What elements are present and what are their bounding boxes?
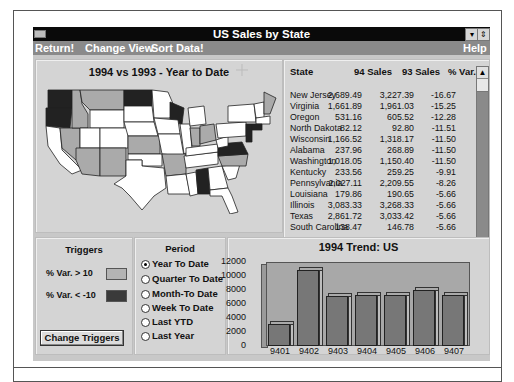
table-row[interactable]: Illinois3,083.333,268.33-5.66	[284, 200, 472, 211]
period-panel: Period Year To Date Quarter To Date Mont…	[134, 237, 226, 355]
trigger-low-swatch[interactable]	[106, 290, 127, 302]
cell-93: 146.78	[387, 222, 414, 233]
cell-93: 259.25	[387, 167, 414, 178]
trend-chart: 1994 Trend: US 12000 10000 8000 6000 400…	[227, 237, 490, 355]
table-row[interactable]: Texas2,861.723,033.42-5.66	[284, 211, 472, 222]
radio-label: Last Year	[152, 330, 194, 342]
window-title: US Sales by State	[33, 27, 490, 41]
y-tick: 0	[206, 340, 246, 350]
cell-93: 605.52	[387, 112, 414, 123]
cell-94: 2,861.72	[328, 211, 362, 222]
bar-9407[interactable]	[442, 295, 464, 346]
table-row[interactable]: Virginia1,661.891,961.03-15.25	[284, 101, 472, 112]
cell-state: North Dakota	[290, 123, 342, 134]
y-tick: 4000	[206, 312, 246, 322]
scroll-up-button[interactable]: ▲	[477, 67, 488, 78]
radio-circle	[141, 275, 150, 284]
bar-9404[interactable]	[355, 295, 377, 346]
cell-94: 82.12	[340, 123, 362, 134]
trigger-low-label: % Var. < -10	[46, 290, 96, 300]
bar-9401[interactable]	[268, 324, 290, 346]
y-tick: 6000	[206, 298, 246, 308]
cell-var: -12.28	[431, 112, 456, 123]
menu-return[interactable]: Return!	[35, 41, 74, 55]
cell-94: 1,018.05	[328, 156, 362, 167]
cell-state: Virginia	[290, 101, 319, 112]
radio-label: Last YTD	[152, 316, 193, 328]
menu-help[interactable]: Help	[463, 41, 487, 55]
cell-93: 1,318.17	[380, 134, 414, 145]
radio-circle	[141, 332, 150, 341]
y-tick: 2000	[206, 326, 246, 336]
vertical-scrollbar[interactable]: ▲ ▼	[476, 66, 489, 255]
radio-circle	[141, 318, 150, 327]
radio-circle	[141, 304, 150, 313]
table-row[interactable]: Oregon531.16605.52-12.28	[284, 112, 472, 123]
x-tick: 9407	[442, 346, 466, 356]
table-row[interactable]: South Carolina138.47146.78-5.66	[284, 222, 472, 233]
cell-93: 1,150.40	[380, 156, 414, 167]
cell-var: -11.51	[432, 123, 456, 134]
cell-94: 2,027.11	[328, 178, 362, 189]
x-tick: 9405	[384, 346, 408, 356]
trigger-high-swatch[interactable]	[106, 268, 127, 280]
radio-circle	[141, 260, 150, 269]
table-row[interactable]: Washington1,018.051,150.40-11.50	[284, 156, 472, 167]
cell-93: 3,227.39	[380, 90, 414, 101]
table-row[interactable]: Alabama237.96268.89-11.50	[284, 145, 472, 156]
cell-var: -11.50	[432, 156, 456, 167]
cell-94: 237.96	[335, 145, 362, 156]
cell-state: Oregon	[290, 112, 319, 123]
trigger-high-label: % Var. > 10	[46, 268, 93, 278]
us-map[interactable]	[42, 84, 280, 214]
bar-9403[interactable]	[326, 296, 348, 346]
cell-var: -11.50	[432, 134, 456, 145]
x-tick: 9404	[355, 346, 379, 356]
cell-94: 1,661.89	[328, 101, 362, 112]
header-93-sales[interactable]: 93 Sales	[402, 66, 440, 77]
table-row[interactable]: Kentucky233.56259.25-9.91	[284, 167, 472, 178]
table-row[interactable]: Louisiana179.86190.65-5.66	[284, 189, 472, 200]
cell-var: -5.66	[436, 222, 456, 233]
menu-sort-data[interactable]: Sort Data!	[151, 41, 204, 55]
bar-side	[348, 294, 352, 346]
sales-table: State 94 Sales 93 Sales % Var. New Jerse…	[283, 59, 490, 257]
x-tick: 9406	[413, 346, 437, 356]
triggers-title: Triggers	[36, 244, 132, 255]
change-triggers-button[interactable]: Change Triggers	[40, 330, 124, 346]
radio-circle	[141, 290, 150, 299]
table-row[interactable]: Pennsylvania2,027.112,209.55-8.26	[284, 178, 472, 189]
header-var[interactable]: % Var.	[448, 66, 476, 77]
cell-state: Kentucky	[290, 167, 326, 178]
cell-var: -5.66	[436, 211, 456, 222]
cell-var: -9.91	[436, 167, 456, 178]
table-row[interactable]: Wisconsin1,166.521,318.17-11.50	[284, 134, 472, 145]
bar-side	[290, 322, 294, 346]
cell-state: Wisconsin	[290, 134, 330, 145]
table-row[interactable]: North Dakota82.1292.80-11.51	[284, 123, 472, 134]
y-tick: 10000	[206, 270, 246, 280]
bar-9405[interactable]	[384, 295, 406, 346]
menu-change-view[interactable]: Change View	[85, 41, 153, 55]
header-state[interactable]: State	[290, 66, 313, 77]
bar-9406[interactable]	[413, 290, 435, 346]
map-panel: 1994 vs 1993 - Year to Date	[35, 59, 283, 233]
cell-state: Illinois	[290, 200, 314, 211]
x-tick: 9403	[326, 346, 350, 356]
restore-button[interactable]: ⇕	[477, 28, 490, 41]
divider	[13, 367, 502, 368]
cell-var: -11.50	[432, 145, 456, 156]
radio-label: Year To Date	[152, 258, 209, 270]
bar-side	[406, 293, 410, 346]
cell-94: 531.16	[335, 112, 362, 123]
scroll-thumb[interactable]	[477, 79, 488, 92]
header-94-sales[interactable]: 94 Sales	[354, 66, 392, 77]
cell-94: 3,083.33	[328, 200, 362, 211]
table-row[interactable]: New Jersey2,689.493,227.39-16.67	[284, 90, 472, 101]
bar-side	[435, 288, 439, 346]
triggers-panel: Triggers % Var. > 10 % Var. < -10 Change…	[35, 237, 133, 355]
cell-state: Texas	[290, 211, 313, 222]
cell-94: 233.56	[335, 167, 362, 178]
bar-9402[interactable]	[297, 270, 319, 346]
title-bar: US Sales by State ▾ ⇕	[33, 27, 490, 41]
